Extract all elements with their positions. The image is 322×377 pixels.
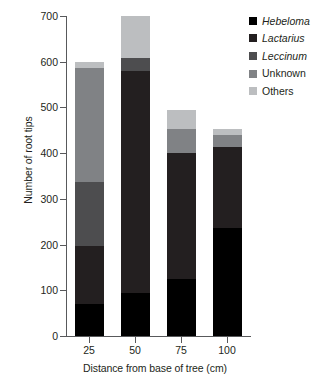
legend-swatch-icon [249, 34, 257, 42]
bar-segment-others[interactable] [121, 16, 150, 58]
x-axis-line [66, 336, 251, 337]
bar-segment-unknown[interactable] [75, 68, 104, 181]
bar-segment-hebeloma[interactable] [213, 228, 242, 336]
legend-item-unknown[interactable]: Unknown [249, 65, 322, 83]
bar-segment-others[interactable] [213, 129, 242, 134]
bar-segment-unknown[interactable] [213, 135, 242, 147]
legend-swatch-icon [249, 52, 257, 60]
y-axis-tick-mark [60, 336, 67, 337]
bar-segment-unknown[interactable] [167, 129, 196, 153]
y-axis-tick-label: 600 [18, 57, 58, 68]
bar-25cm[interactable] [75, 16, 104, 336]
y-axis-tick-label: 0 [18, 331, 58, 342]
legend-swatch-icon [249, 17, 257, 25]
y-axis-tick-label: 400 [18, 148, 58, 159]
legend-swatch-icon [249, 70, 257, 78]
legend-label: Lactarius [262, 33, 305, 44]
bar-segment-hebeloma[interactable] [121, 293, 150, 336]
legend-swatch-icon [249, 87, 257, 95]
bar-segment-lactarius[interactable] [167, 153, 196, 279]
x-axis-tick-mark [135, 337, 136, 343]
y-axis-tick-label: 100 [18, 285, 58, 296]
y-axis-tick-label: 200 [18, 240, 58, 251]
bar-segment-hebeloma[interactable] [167, 279, 196, 336]
x-axis-tick-mark [227, 337, 228, 343]
bar-segment-lactarius[interactable] [75, 246, 104, 305]
legend-item-others[interactable]: Others [249, 82, 322, 100]
legend-item-leccinum[interactable]: Leccinum [249, 47, 322, 65]
bar-segment-lactarius[interactable] [121, 71, 150, 293]
legend-label: Unknown [262, 68, 306, 79]
x-axis-tick-label: 75 [156, 345, 206, 356]
legend-label: Others [262, 86, 294, 97]
y-axis-tick-label: 500 [18, 102, 58, 113]
x-axis-tick-mark [89, 337, 90, 343]
legend-item-hebeloma[interactable]: Hebeloma [249, 12, 322, 30]
bar-segment-others[interactable] [75, 62, 104, 68]
bar-segment-others[interactable] [167, 110, 196, 130]
x-axis-tick-label: 25 [64, 345, 114, 356]
x-axis-title: Distance from base of tree (cm) [40, 362, 270, 374]
bar-75cm[interactable] [167, 16, 196, 336]
x-axis-tick-mark [181, 337, 182, 343]
y-axis-tick-label: 700 [18, 11, 58, 22]
bar-50cm[interactable] [121, 16, 150, 336]
bar-segment-hebeloma[interactable] [75, 304, 104, 336]
bar-segment-leccinum[interactable] [75, 182, 104, 246]
y-axis-tick-label: 300 [18, 194, 58, 205]
stacked-bar-chart-figure: Number of root tips 01002003004005006007… [0, 0, 322, 377]
bar-100cm[interactable] [213, 16, 242, 336]
plot-area [66, 16, 250, 336]
bar-segment-leccinum[interactable] [121, 58, 150, 71]
x-axis-tick-label: 100 [202, 345, 252, 356]
legend-label: Leccinum [262, 51, 307, 62]
legend-label: Hebeloma [262, 16, 310, 27]
bar-segment-lactarius[interactable] [213, 147, 242, 228]
legend-item-lactarius[interactable]: Lactarius [249, 30, 322, 48]
chart-legend: HebelomaLactariusLeccinumUnknownOthers [249, 12, 322, 100]
x-axis-tick-label: 50 [110, 345, 160, 356]
